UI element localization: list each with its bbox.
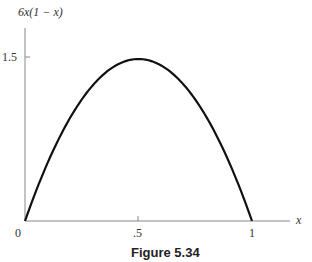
- x-tick-label-0-5: .5: [133, 226, 142, 240]
- y-tick-label-1-5: 1.5: [2, 50, 17, 64]
- x-tick-label-1: 1: [249, 226, 255, 240]
- chart-figure: 6x(1 − x) x 1.5 0 .5 1 Figure 5.34: [0, 0, 312, 262]
- function-curve: [25, 59, 252, 221]
- y-axis-label: 6x(1 − x): [18, 5, 63, 19]
- x-tick-label-0: 0: [15, 226, 21, 240]
- x-axis-label: x: [295, 213, 302, 227]
- figure-caption: Figure 5.34: [131, 245, 200, 260]
